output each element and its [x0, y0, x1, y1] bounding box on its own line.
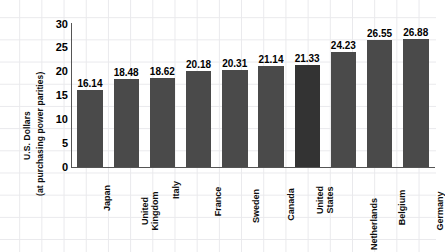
x-label-japan: Japan	[103, 185, 113, 211]
x-label-belgium: Belgium	[397, 190, 407, 226]
x-label-canada: Canada	[287, 188, 297, 221]
bar-group: 18.62	[150, 24, 175, 167]
x-axis-line	[71, 167, 435, 168]
bar-value-label: 24.23	[331, 41, 356, 51]
x-label-united-states: UnitedStates	[316, 186, 335, 214]
bar-group: 20.31	[222, 24, 247, 167]
bar-group: 24.23	[331, 24, 356, 167]
plot-area: 16.1418.4818.6220.1820.3121.1421.3324.23…	[72, 24, 434, 167]
y-axis-tick-30: 30	[38, 19, 68, 30]
bar-value-label: 26.88	[403, 28, 428, 38]
bar-united-states[interactable]: 21.33	[295, 65, 320, 167]
x-label-united-kingdom: UnitedKingdom	[141, 192, 160, 231]
bar-value-label: 20.18	[186, 60, 211, 70]
bar-netherlands[interactable]: 24.23	[331, 52, 356, 167]
bar-united-kingdom[interactable]: 18.48	[114, 79, 139, 167]
bar-value-label: 18.62	[150, 67, 175, 77]
bar-value-label: 21.14	[258, 55, 283, 65]
bar-france[interactable]: 20.18	[186, 71, 211, 167]
bar-sweden[interactable]: 20.31	[222, 70, 247, 167]
bar-value-label: 18.48	[114, 68, 139, 78]
y-axis-tick-25: 25	[38, 42, 68, 53]
y-axis-tick-10: 10	[38, 114, 68, 125]
bar-group: 18.48	[114, 24, 139, 167]
bar-value-label: 26.55	[367, 29, 392, 39]
bar-group: 20.18	[186, 24, 211, 167]
y-axis-tick-20: 20	[38, 66, 68, 77]
y-axis-tick-5: 5	[38, 138, 68, 149]
bar-japan[interactable]: 16.14	[77, 90, 102, 167]
bar-value-label: 20.31	[222, 59, 247, 69]
bar-group: 21.14	[258, 24, 283, 167]
x-label-germany: Germany	[435, 192, 445, 231]
bar-group: 26.55	[367, 24, 392, 167]
bar-group: 21.33	[295, 24, 320, 167]
bar-group: 16.14	[77, 24, 102, 167]
y-axis-tick-15: 15	[38, 90, 68, 101]
bar-group: 26.88	[403, 24, 428, 167]
x-label-sweden: Sweden	[252, 189, 262, 223]
y-axis-tick-0: 0	[38, 162, 68, 173]
bar-belgium[interactable]: 26.55	[367, 40, 392, 167]
bar-value-label: 16.14	[77, 79, 102, 89]
x-label-netherlands: Netherlands	[370, 198, 380, 250]
bar-value-label: 21.33	[295, 54, 320, 64]
bar-germany[interactable]: 26.88	[403, 39, 428, 167]
bar-italy[interactable]: 18.62	[150, 78, 175, 167]
x-label-italy: Italy	[172, 181, 182, 199]
y-axis-title-line1: U.S. Dollars	[22, 111, 32, 160]
bar-canada[interactable]: 21.14	[258, 66, 283, 167]
x-label-france: France	[213, 187, 223, 217]
